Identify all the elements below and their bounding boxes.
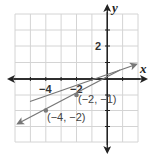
axes [9, 6, 146, 152]
coordinate-plane: x y −4 −2 2 (−2, −1) (−4, −2) [0, 0, 153, 158]
y-tick-label: 2 [95, 40, 101, 52]
y-axis-label: y [110, 0, 118, 15]
x-axis-label: x [139, 61, 147, 76]
point-label: (−4, −2) [47, 111, 86, 123]
point-label: (−2, −1) [78, 93, 117, 105]
x-tick-label: −4 [39, 83, 52, 95]
